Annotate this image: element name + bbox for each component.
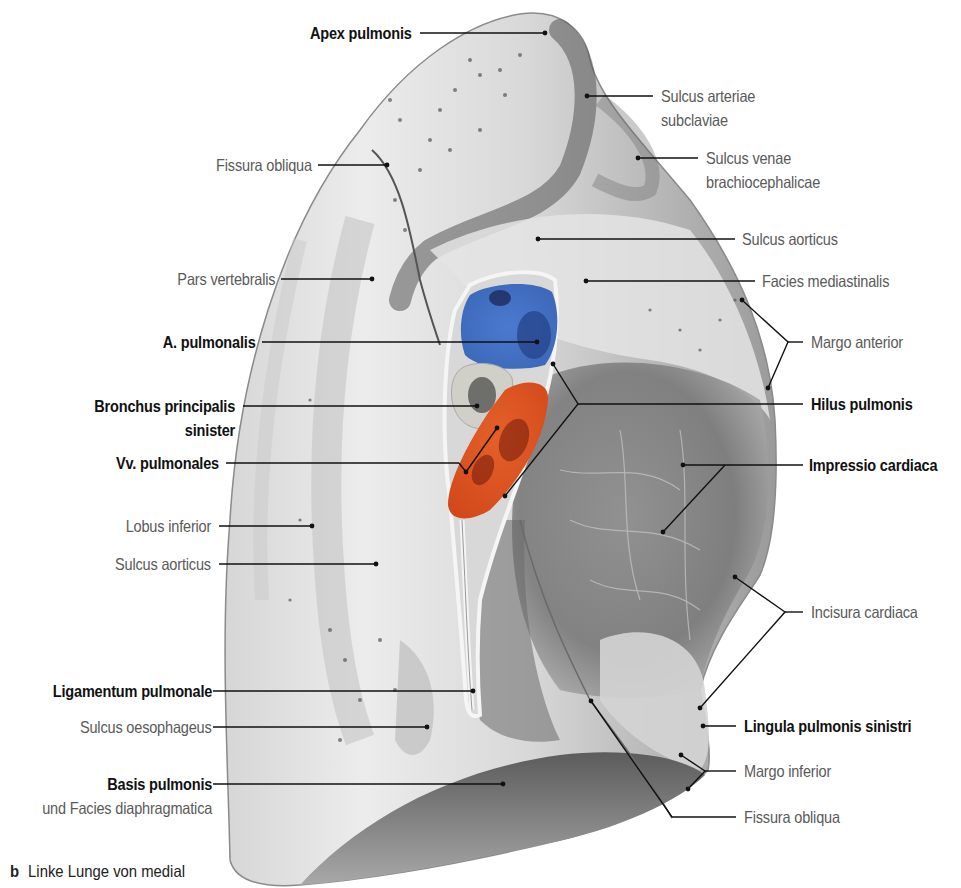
label-vv-pulmonales: Vv. pulmonales (116, 453, 219, 473)
caption-letter: b (10, 862, 19, 880)
label-ligamentum-pulmonale: Ligamentum pulmonale (53, 681, 212, 701)
left-lung-illustration (0, 0, 961, 888)
label-brachiocephalicae: brachiocephalicae (706, 172, 820, 192)
anatomy-figure: Apex pulmonis Fissura obliqua Pars verte… (0, 0, 961, 888)
label-a-pulmonalis: A. pulmonalis (163, 332, 256, 352)
label-sulcus-arteriae: Sulcus arteriae (661, 86, 755, 106)
label-facies-mediastinalis: Facies mediastinalis (762, 271, 889, 291)
label-facies-diaphragmatica: und Facies diaphragmatica (42, 798, 212, 818)
label-hilus-pulmonis: Hilus pulmonis (811, 394, 913, 414)
figure-caption: bLinke Lunge von medial (10, 862, 185, 881)
label-basis-pulmonis: Basis pulmonis (107, 774, 212, 794)
label-subclaviae: subclaviae (661, 110, 728, 130)
label-sulcus-aorticus-lower: Sulcus aorticus (115, 554, 211, 574)
label-fissura-obliqua-upper: Fissura obliqua (216, 155, 312, 175)
caption-text: Linke Lunge von medial (28, 862, 185, 880)
label-margo-anterior: Margo anterior (811, 332, 903, 352)
label-pars-vertebralis: Pars vertebralis (177, 269, 275, 289)
label-fissura-obliqua-lower: Fissura obliqua (744, 807, 840, 827)
label-bronchus-sinister: sinister (185, 420, 235, 440)
label-incisura-cardiaca: Incisura cardiaca (811, 602, 918, 622)
label-impressio-cardiaca: Impressio cardiaca (809, 455, 937, 475)
label-sulcus-oesophageus: Sulcus oesophageus (80, 717, 212, 737)
label-lobus-inferior: Lobus inferior (125, 516, 211, 536)
label-bronchus-principalis: Bronchus principalis (94, 396, 235, 416)
label-apex-pulmonis: Apex pulmonis (310, 23, 412, 43)
label-margo-inferior: Margo inferior (744, 761, 831, 781)
label-lingula: Lingula pulmonis sinistri (744, 716, 911, 736)
label-sulcus-aorticus-upper: Sulcus aorticus (742, 229, 838, 249)
label-sulcus-venae: Sulcus venae (706, 148, 791, 168)
